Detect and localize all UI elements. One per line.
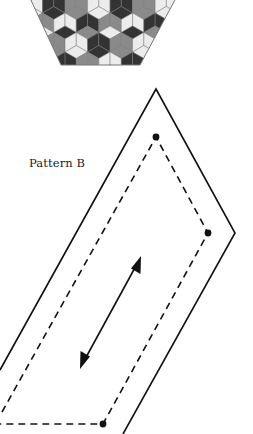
quilt-tile bbox=[31, 130, 42, 150]
quilt-tile bbox=[245, 130, 253, 150]
quilt-tile bbox=[9, 26, 32, 39]
pattern-diagram bbox=[0, 0, 253, 434]
quilt-tile bbox=[178, 91, 189, 111]
quilt-tile bbox=[133, 130, 144, 150]
quilt-tile bbox=[211, 91, 222, 111]
quilt-tile bbox=[155, 85, 178, 98]
quilt-tile bbox=[166, 111, 177, 131]
quilt-tile bbox=[76, 91, 87, 111]
corner-dot-top bbox=[153, 134, 160, 141]
quilt-tile bbox=[76, 104, 99, 117]
quilt-tile bbox=[43, 85, 66, 98]
quilt-tile bbox=[20, 91, 31, 111]
quilt-tile bbox=[144, 65, 167, 78]
quilt-tile bbox=[189, 65, 212, 78]
quilt-tile bbox=[20, 111, 31, 131]
quilt-tile bbox=[200, 91, 211, 111]
quilt-tile bbox=[54, 91, 65, 111]
quilt-tile bbox=[0, 72, 9, 92]
quilt-tile bbox=[65, 124, 88, 137]
quilt-tile bbox=[9, 13, 20, 33]
quilt-tile bbox=[133, 91, 144, 111]
quilt-tile bbox=[20, 13, 31, 33]
quilt-tile bbox=[76, 111, 87, 131]
quilt-tile bbox=[31, 111, 42, 131]
quilt-tile bbox=[155, 124, 178, 137]
quilt-tile bbox=[43, 130, 54, 150]
quilt-tile bbox=[65, 111, 76, 131]
quilt-tile bbox=[245, 91, 253, 111]
quilt-tile bbox=[9, 111, 20, 131]
quilt-tile bbox=[223, 85, 246, 98]
quilt-tile bbox=[200, 111, 211, 131]
quilt-tile bbox=[0, 65, 9, 78]
quilt-tile bbox=[166, 91, 177, 111]
quilt-tile bbox=[31, 91, 42, 111]
quilt-tile bbox=[155, 33, 166, 53]
quilt-tile bbox=[133, 72, 144, 92]
quilt-tile bbox=[234, 0, 245, 13]
grain-direction-arrow bbox=[80, 256, 141, 369]
quilt-tile bbox=[9, 0, 20, 13]
quilt-tile bbox=[200, 130, 211, 150]
quilt-tile bbox=[178, 0, 189, 13]
quilt-tile bbox=[178, 7, 201, 20]
quilt-tile bbox=[245, 33, 253, 53]
quilt-tile bbox=[155, 91, 166, 111]
quilt-tile bbox=[121, 104, 144, 117]
quilt-tile bbox=[99, 130, 110, 150]
quilt-tile bbox=[9, 52, 20, 72]
quilt-tile bbox=[0, 91, 9, 111]
quilt-tile bbox=[166, 130, 177, 150]
quilt-tile bbox=[0, 26, 9, 39]
quilt-tile bbox=[0, 130, 9, 150]
quilt-tile bbox=[54, 65, 77, 78]
quilt-tile bbox=[9, 91, 20, 111]
quilt-tile bbox=[189, 33, 200, 53]
quilt-tile bbox=[189, 52, 200, 72]
quilt-tile bbox=[144, 130, 155, 150]
quilt-tile bbox=[245, 7, 253, 20]
quilt-tile bbox=[211, 72, 222, 92]
quilt-tile bbox=[54, 104, 77, 117]
quilt-tile bbox=[110, 72, 121, 92]
quilt-tile bbox=[166, 52, 177, 72]
quilt-tile bbox=[234, 111, 245, 131]
quilt-tile bbox=[155, 52, 166, 72]
quilt-tile bbox=[99, 72, 110, 92]
quilt-tile bbox=[65, 91, 76, 111]
quilt-tile bbox=[200, 72, 211, 92]
quilt-tile bbox=[178, 33, 189, 53]
quilt-tile bbox=[166, 33, 177, 53]
quilt-tile bbox=[234, 65, 253, 78]
quilt-tile bbox=[245, 124, 253, 137]
quilt-tile bbox=[245, 85, 253, 98]
quilt-tile bbox=[234, 13, 245, 33]
quilt-tile bbox=[211, 33, 222, 53]
quilt-tile bbox=[178, 13, 189, 33]
quilt-tile bbox=[0, 0, 9, 13]
quilt-tile bbox=[211, 65, 234, 78]
corner-dot-bottom bbox=[100, 421, 107, 428]
quilt-tile bbox=[20, 52, 31, 72]
quilt-tile bbox=[43, 91, 54, 111]
quilt-tile bbox=[178, 111, 189, 131]
quilt-tile bbox=[110, 130, 121, 150]
quilt-tile bbox=[43, 111, 54, 131]
quilt-tile bbox=[0, 104, 9, 117]
pattern-label: Pattern B bbox=[29, 156, 85, 170]
quilt-tile bbox=[99, 91, 110, 111]
quilt-tile bbox=[99, 104, 122, 117]
quilt-tile bbox=[189, 26, 212, 39]
quilt-tile bbox=[223, 13, 234, 33]
quilt-tile bbox=[0, 85, 20, 98]
quilt-tile bbox=[200, 33, 211, 53]
quilt-tile bbox=[166, 13, 177, 33]
quilt-tile bbox=[234, 104, 253, 117]
quilt-tile bbox=[88, 91, 99, 111]
quilt-tile bbox=[9, 65, 32, 78]
quilt-tile bbox=[223, 0, 234, 13]
quilt-tile bbox=[211, 111, 222, 131]
quilt-tile bbox=[110, 91, 121, 111]
quilt-tile bbox=[9, 72, 20, 92]
